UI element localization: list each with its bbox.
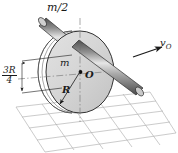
offset-denominator: 4: [2, 76, 17, 85]
rod-mass-label: m/2: [47, 2, 68, 13]
velocity-label: vO: [160, 38, 171, 51]
physics-figure: m/2 m O R vO 3R 4: [0, 0, 178, 153]
velocity-arrow: [133, 47, 162, 57]
center-point-label: O: [85, 70, 94, 80]
offset-dimension-label: 3R 4: [2, 66, 17, 86]
disc-mass-label: m: [60, 58, 69, 68]
radius-label: R: [62, 85, 70, 95]
velocity-subscript: O: [166, 43, 172, 51]
